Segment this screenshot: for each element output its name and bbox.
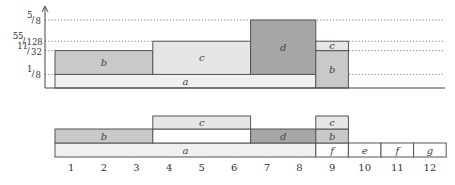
x-tick-label: 2	[101, 162, 107, 173]
x-tick-label: 4	[166, 162, 172, 173]
y-tick-label: 5/8	[27, 10, 41, 26]
x-tick-label: 7	[264, 162, 270, 173]
block-label: c	[199, 52, 205, 63]
cell-label: b	[101, 131, 107, 142]
y-tick-label: 1/8	[27, 64, 41, 80]
packing-diagram: 1/811/3255/1285/8abcdbc afefgbdbcc123456…	[0, 0, 455, 185]
x-tick-label: 8	[296, 162, 302, 173]
x-tick-label: 12	[424, 162, 437, 173]
tick-slash: /	[32, 15, 35, 25]
tick-slash: /	[32, 69, 35, 79]
block-label: b	[101, 57, 107, 68]
x-tick-label: 9	[329, 162, 335, 173]
cell-label: d	[280, 131, 286, 142]
x-tick-label: 6	[231, 162, 237, 173]
cell-label: c	[199, 117, 205, 128]
cell-label: b	[329, 131, 335, 142]
tick-denominator: 8	[36, 70, 41, 80]
x-tick-label: 1	[68, 162, 74, 173]
x-tick-label: 11	[391, 162, 404, 173]
tick-denominator: 8	[36, 16, 41, 26]
cell-label: a	[182, 145, 188, 156]
top-chart: 1/811/3255/1285/8abcdbc	[13, 6, 445, 88]
block-label: b	[329, 64, 335, 75]
cell-label: c	[329, 117, 335, 128]
x-tick-label: 3	[133, 162, 139, 173]
tick-denominator: 32	[31, 47, 42, 57]
block-label: a	[182, 76, 188, 87]
cell-empty	[153, 129, 251, 143]
x-tick-label: 5	[199, 162, 205, 173]
bottom-chart: afefgbdbcc123456789101112	[55, 116, 446, 173]
block-label: d	[280, 42, 286, 53]
block-label: c	[329, 40, 335, 51]
x-tick-label: 10	[358, 162, 371, 173]
cell-label: e	[362, 145, 368, 156]
tick-denominator: 128	[27, 37, 43, 47]
tick-slash: /	[23, 36, 26, 46]
cell-label: g	[427, 145, 433, 156]
